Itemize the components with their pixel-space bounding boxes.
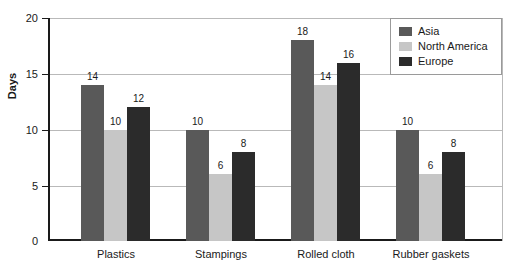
x-category-label-stampings: Stampings: [170, 248, 272, 261]
bar-value-plastics-europe: 12: [127, 94, 150, 104]
y-tick-label-0: 0: [2, 236, 38, 247]
bar-stampings-north-america: [209, 174, 232, 241]
y-tick-label-20: 20: [2, 13, 38, 24]
bar-value-stampings-north-america: 6: [209, 161, 232, 171]
legend-item-europe: Europe: [399, 54, 495, 69]
y-axis-title: Days: [2, 56, 22, 116]
x-category-label-rolled-cloth: Rolled cloth: [275, 248, 377, 261]
legend-swatch-asia-icon: [399, 27, 412, 36]
legend-label-asia: Asia: [418, 25, 439, 38]
bar-stampings-europe: [232, 152, 255, 241]
bar-rolled-cloth-north-america: [314, 85, 337, 241]
bar-value-rubber-gaskets-europe: 8: [442, 139, 465, 149]
bar-value-plastics-asia: 14: [81, 72, 104, 82]
y-tick-label-5: 5: [2, 181, 38, 192]
bar-rubber-gaskets-europe: [442, 152, 465, 241]
bar-value-rolled-cloth-europe: 16: [337, 50, 360, 60]
legend-swatch-europe-icon: [399, 57, 412, 66]
legend: Asia North America Europe: [390, 18, 502, 75]
bar-value-stampings-asia: 10: [186, 117, 209, 127]
y-tick-label-15: 15: [2, 69, 38, 80]
bar-value-rolled-cloth-north-america: 14: [314, 72, 337, 82]
bar-value-rubber-gaskets-north-america: 6: [419, 161, 442, 171]
legend-swatch-north-america-icon: [399, 42, 412, 51]
bar-rolled-cloth-asia: [291, 40, 314, 241]
bar-rolled-cloth-europe: [337, 63, 360, 241]
bar-rubber-gaskets-asia: [396, 130, 419, 241]
bar-value-rubber-gaskets-asia: 10: [396, 117, 419, 127]
legend-label-north-america: North America: [418, 40, 488, 53]
bar-stampings-asia: [186, 130, 209, 241]
bar-plastics-asia: [81, 85, 104, 241]
bar-value-plastics-north-america: 10: [104, 117, 127, 127]
plot-frame-right: [502, 18, 503, 241]
bar-value-rolled-cloth-asia: 18: [291, 27, 314, 37]
x-category-label-rubber-gaskets: Rubber gaskets: [380, 248, 482, 261]
bar-rubber-gaskets-north-america: [419, 174, 442, 241]
y-tick-label-10: 10: [2, 125, 38, 136]
legend-label-europe: Europe: [418, 55, 453, 68]
legend-item-north-america: North America: [399, 39, 495, 54]
bar-plastics-europe: [127, 107, 150, 241]
legend-item-asia: Asia: [399, 24, 495, 39]
bar-chart: Days 20 15 10 5 0 14 10 12 10 6 8 18 14 …: [0, 0, 515, 275]
x-category-label-plastics: Plastics: [65, 248, 167, 261]
bar-value-stampings-europe: 8: [232, 139, 255, 149]
bar-plastics-north-america: [104, 130, 127, 241]
